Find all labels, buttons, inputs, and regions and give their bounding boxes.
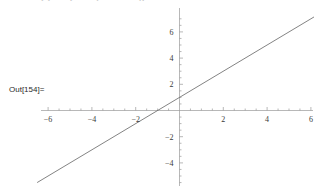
mathematica-notebook: ClearAll[x]; Plot[x + 1, {x, -6.5, 6.5}]… — [0, 0, 314, 188]
y-tick-label: 2 — [170, 80, 174, 89]
y-tick-label: 6 — [170, 28, 174, 37]
y-tick-label: −4 — [165, 159, 174, 168]
curve-group — [37, 12, 314, 182]
x-tick-label: −4 — [88, 115, 97, 124]
plot-svg: −6−4−2246−4−2246 — [0, 0, 314, 188]
x-tick-label: 2 — [221, 115, 225, 124]
plot-line-series-0 — [37, 12, 314, 182]
axes-group — [41, 8, 313, 186]
x-tick-label: −6 — [44, 115, 53, 124]
plot-graphics-cell[interactable]: −6−4−2246−4−2246 — [0, 0, 314, 188]
x-tick-label: 6 — [309, 115, 313, 124]
x-tick-label: −2 — [131, 115, 140, 124]
y-tick-label: 4 — [170, 54, 174, 63]
y-tick-label: −2 — [165, 133, 174, 142]
x-tick-label: 4 — [265, 115, 269, 124]
